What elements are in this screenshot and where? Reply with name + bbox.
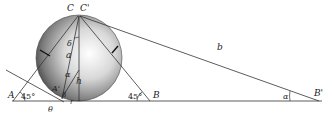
- label-delta: δ: [67, 39, 72, 48]
- label-C: C: [67, 3, 74, 13]
- label-alpha-inner: α: [65, 70, 71, 79]
- label-A-prime: A': [51, 84, 60, 93]
- label-b: b: [217, 42, 223, 52]
- label-B-prime: B': [313, 88, 323, 98]
- label-angle-A: 45°: [21, 92, 35, 101]
- label-h: h: [76, 76, 82, 86]
- label-theta: θ: [48, 105, 53, 114]
- label-B: B: [152, 90, 160, 100]
- label-angle-B: 45°: [128, 92, 142, 101]
- label-C-prime: C': [80, 3, 89, 13]
- label-A: A: [7, 90, 15, 100]
- label-alpha-outer: α: [283, 92, 289, 101]
- label-a: a: [66, 50, 71, 60]
- geometry-diagram: C C' A 45° B 45° B' α b δ a α h A' β θ r: [0, 0, 332, 119]
- label-beta: β: [61, 91, 66, 99]
